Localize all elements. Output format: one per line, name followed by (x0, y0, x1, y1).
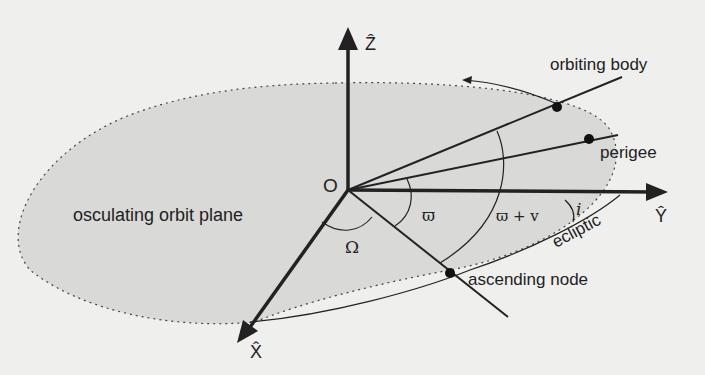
x-axis-label: X̂ (250, 341, 262, 362)
origin-label: O (323, 175, 338, 196)
x-axis-arrowhead (237, 320, 258, 343)
perigee-label: perigee (600, 143, 657, 162)
inclination-label: i (576, 199, 581, 219)
varpi-label: ϖ (422, 206, 435, 225)
ascending-node-label: ascending node (468, 270, 588, 289)
orbiting-body-label: orbiting body (550, 55, 648, 74)
ascending-node-point (445, 268, 455, 278)
z-axis-label: Ẑ (365, 34, 376, 54)
varpi-plus-v-label: ϖ + v (496, 207, 539, 225)
omega-label: Ω (345, 237, 359, 257)
orbital-elements-diagram: orbiting body perigee O osculating orbit… (0, 0, 705, 375)
y-axis-arrowhead (646, 183, 668, 201)
y-axis (348, 190, 655, 192)
z-axis-arrowhead (338, 27, 358, 50)
y-axis-label: Ŷ (655, 206, 667, 226)
perigee-point (584, 134, 594, 144)
orbiting-body-point (552, 102, 562, 112)
plane-label: osculating orbit plane (73, 205, 243, 225)
orbit-direction-arrowhead (462, 76, 472, 84)
